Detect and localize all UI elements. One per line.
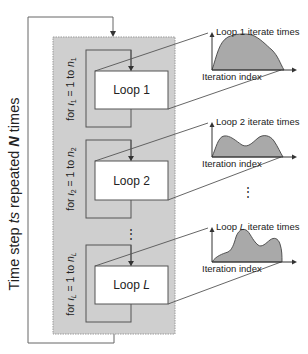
outer-loop-label: Time step ts repeated N times (6, 98, 22, 291)
iterate-times-chart-1: Loop 1 iterate times Iteration index (202, 26, 300, 82)
y-axis-arrow-icon (210, 32, 215, 37)
chart-x-label: Iteration index (202, 158, 262, 169)
loop-diagram: Time step ts repeated N times Loop 1 for… (0, 0, 308, 354)
chart-x-label: Iteration index (202, 263, 262, 274)
iterate-times-chart-2: Loop 2 iterate times Iteration index (202, 116, 300, 169)
for-label: for ι1 = 1 to n1 (64, 57, 77, 121)
for-label: for ιL = 1 to nL (64, 252, 77, 316)
loop-box-label: Loop 2 (113, 174, 150, 188)
loop-box-label: Loop L (113, 278, 150, 292)
chart-y-label: Loop L iterate times (216, 221, 300, 232)
y-axis-arrow-icon (210, 227, 215, 232)
for-label: for ι2 = 1 to n2 (64, 147, 77, 211)
x-axis-arrow-icon (292, 68, 297, 73)
arrow-down-icon (110, 31, 116, 37)
y-axis-arrow-icon (210, 122, 215, 127)
x-axis-arrow-icon (292, 260, 297, 265)
iterate-times-chart-L: Loop L iterate times Iteration index (202, 221, 300, 274)
chart-y-label: Loop 1 iterate times (216, 26, 300, 37)
loop-box-label: Loop 1 (113, 83, 150, 97)
x-axis-arrow-icon (292, 155, 297, 160)
ellipsis-charts: ⋮ (242, 185, 254, 199)
ellipsis-panel: ⋮ (125, 227, 137, 241)
chart-x-label: Iteration index (202, 71, 262, 82)
chart-y-label: Loop 2 iterate times (216, 116, 300, 127)
